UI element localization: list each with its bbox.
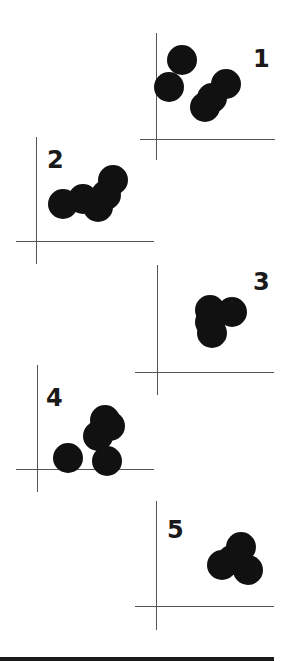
bottom-rule [0, 657, 274, 661]
panel-label: 5 [167, 518, 184, 542]
y-axis-line [156, 501, 157, 630]
x-axis-line [135, 606, 274, 607]
panel-5: 5 [0, 0, 293, 661]
data-point-circle [217, 545, 247, 575]
